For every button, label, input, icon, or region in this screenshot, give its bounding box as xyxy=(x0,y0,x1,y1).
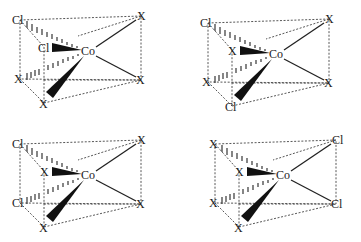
atom-label: Cl xyxy=(225,100,237,114)
atom-label: X xyxy=(137,133,146,147)
isomer-figure: Cl X Cl Co X X X Cl X X Co X X Cl Cl X X… xyxy=(0,0,361,242)
atom-label: Cl xyxy=(12,137,24,151)
isomer-panel-1: Cl X Cl Co X X X xyxy=(12,9,146,111)
isomer-panel-3: Cl X X Co Cl X X xyxy=(12,133,146,235)
metal-center: Co xyxy=(276,168,290,182)
atom-label: Cl xyxy=(12,196,24,210)
atom-label: X xyxy=(324,76,333,90)
atom-label: X xyxy=(39,97,48,111)
atom-label: X xyxy=(40,165,49,179)
atom-label: X xyxy=(209,137,218,151)
atom-label: X xyxy=(235,165,244,179)
atom-label: Cl xyxy=(332,133,344,147)
metal-center: Co xyxy=(269,47,283,61)
atom-label: X xyxy=(14,72,23,86)
atom-label: Cl xyxy=(200,16,212,30)
metal-center: Co xyxy=(81,168,95,182)
metal-center: Co xyxy=(81,44,95,58)
atom-label: X xyxy=(325,12,334,26)
atom-label: X xyxy=(136,197,145,211)
atom-label: X xyxy=(209,196,218,210)
atom-label: X xyxy=(137,9,146,23)
atom-label: Cl xyxy=(12,13,24,27)
isomer-panel-2: Cl X X Co X X Cl xyxy=(200,12,334,114)
isomer-panel-4: X Cl X Co X Cl X xyxy=(209,133,344,235)
atom-label: X xyxy=(234,221,243,235)
atom-label: X xyxy=(39,221,48,235)
atom-label: Cl xyxy=(38,41,50,55)
atom-label: X xyxy=(136,73,145,87)
atom-label: Cl xyxy=(331,197,343,211)
atom-label: X xyxy=(202,75,211,89)
atom-label: X xyxy=(228,44,237,58)
